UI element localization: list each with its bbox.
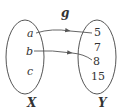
arrow-a-to-5: [36, 30, 70, 33]
codomain-element-8: 8: [93, 55, 100, 68]
domain-label: X: [26, 96, 37, 110]
codomain-element-15: 15: [91, 70, 105, 83]
domain-element-b: b: [26, 45, 33, 58]
arrow-b-to-8: [34, 51, 72, 53]
mapping-diagram: g a b c X 5 7 8 15 Y: [0, 0, 127, 111]
arrow-a-to-5-tail: [70, 31, 92, 33]
domain-element-a: a: [27, 27, 34, 40]
arrow-b-to-8-tail: [72, 53, 92, 60]
codomain-label: Y: [98, 96, 108, 110]
codomain-element-5: 5: [94, 26, 101, 39]
domain-element-c: c: [27, 65, 33, 78]
domain-set-x: [6, 20, 44, 94]
codomain-element-7: 7: [94, 41, 101, 54]
function-name: g: [61, 6, 69, 20]
